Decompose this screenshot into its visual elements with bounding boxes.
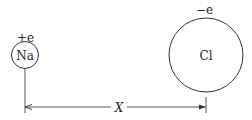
distance-label: X bbox=[114, 101, 124, 115]
chlorine-ion: −e Cl bbox=[169, 3, 243, 113]
cl-charge-label: −e bbox=[196, 3, 213, 17]
sodium-ion: +e Na bbox=[12, 31, 39, 113]
distance-dimension: X bbox=[26, 101, 205, 115]
na-label: Na bbox=[16, 49, 34, 63]
cl-label: Cl bbox=[199, 49, 212, 63]
ionic-bond-diagram: +e Na −e Cl X bbox=[0, 0, 252, 120]
